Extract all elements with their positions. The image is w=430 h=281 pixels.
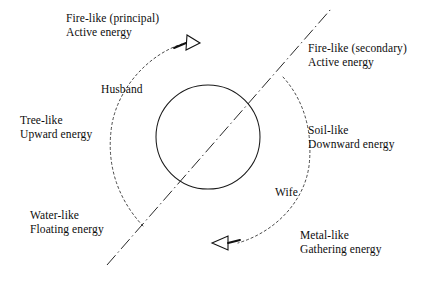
label-soil-like-line1: Soil-like xyxy=(308,124,349,136)
husband-arrow-tail xyxy=(174,43,186,48)
label-metal-like-line1: Metal-like xyxy=(300,229,349,241)
label-husband-text: Husband xyxy=(101,83,143,95)
label-water-like-line1: Water-like xyxy=(30,209,79,221)
label-fire-principal: Fire-like (principal) Active energy xyxy=(66,11,159,39)
wife-dashed-arc xyxy=(238,77,310,243)
label-husband: Husband xyxy=(101,82,143,96)
label-tree-like-line1: Tree-like xyxy=(20,114,63,126)
dash-dot-axis xyxy=(107,9,331,265)
label-soil-like: Soil-like Downward energy xyxy=(308,123,395,151)
label-fire-secondary-line2: Active energy xyxy=(308,55,407,69)
label-water-like: Water-like Floating energy xyxy=(30,208,104,236)
label-soil-like-line2: Downward energy xyxy=(308,137,395,151)
label-wife: Wife xyxy=(275,185,298,199)
label-water-like-line2: Floating energy xyxy=(30,222,104,236)
center-circle xyxy=(156,85,260,189)
label-fire-principal-line1: Fire-like (principal) xyxy=(66,12,159,24)
label-fire-secondary: Fire-like (secondary) Active energy xyxy=(308,41,407,69)
label-fire-secondary-line1: Fire-like (secondary) xyxy=(308,42,407,54)
husband-arrowhead xyxy=(186,35,200,50)
label-wife-text: Wife xyxy=(275,186,298,198)
husband-dashed-arc xyxy=(110,44,182,226)
label-metal-like: Metal-like Gathering energy xyxy=(300,228,382,256)
label-fire-principal-line2: Active energy xyxy=(66,25,159,39)
wife-arrowhead xyxy=(212,236,228,250)
label-tree-like: Tree-like Upward energy xyxy=(20,113,92,141)
label-metal-like-line2: Gathering energy xyxy=(300,242,382,256)
label-tree-like-line2: Upward energy xyxy=(20,127,92,141)
diagram-canvas: Fire-like (principal) Active energy Fire… xyxy=(0,0,430,281)
